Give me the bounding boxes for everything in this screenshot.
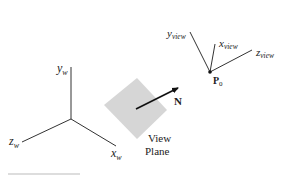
view-y-axis [190,32,210,72]
view-plane-label-line2: Plane [145,145,170,157]
world-z-axis [22,119,71,142]
world-axes: yw zw xw [8,61,122,162]
viewing-coordinates-diagram: yw zw xw View Plane N yview xview zview [0,0,286,175]
view-plane-label-line1: View [148,132,171,144]
world-x-axis [71,119,116,146]
view-axes: yview xview zview P0 [166,27,274,88]
world-x-label: xw [110,146,122,162]
view-origin-point [208,70,212,74]
view-plane-square [104,78,167,139]
world-z-label: zw [8,134,20,150]
view-z-axis [210,50,252,72]
normal-label: N [174,95,182,107]
view-y-label: yview [166,27,186,41]
view-x-axis [210,44,215,72]
view-z-label: zview [255,46,274,60]
view-x-label: xview [218,37,238,51]
view-origin-label: P0 [213,75,223,88]
world-y-label: yw [56,61,68,77]
